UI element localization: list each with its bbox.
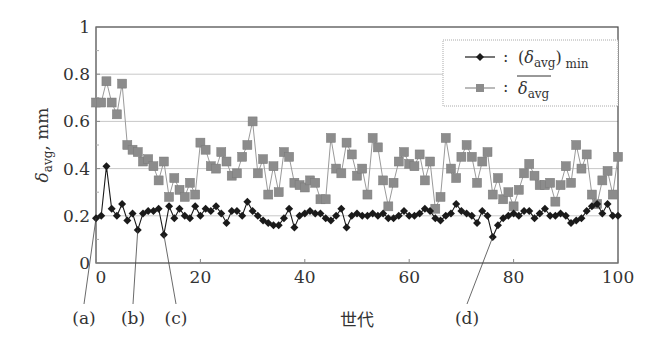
y-axis: 00.20.40.60.81 [63, 17, 100, 273]
x-axis-label: 世代 [340, 310, 374, 330]
legend: : (δavg) min : δavg [443, 40, 618, 106]
annotation-label: (a) [72, 308, 95, 328]
y-tick-label: 1 [79, 17, 90, 37]
annotation-label: (c) [165, 308, 188, 328]
x-tick-label: 0 [96, 267, 107, 287]
svg-text:δavg, mm: δavg, mm [32, 108, 55, 183]
x-tick-label: 40 [294, 267, 316, 287]
square-marker-icon [476, 84, 484, 92]
y-axis-label: δavg, mm [32, 108, 55, 183]
x-tick-label: 100 [602, 267, 634, 287]
svg-text::: : [503, 77, 508, 96]
y-tick-label: 0.6 [63, 111, 90, 131]
y-tick-label: 0.8 [63, 64, 90, 84]
annotation-label: (b) [121, 308, 145, 328]
chart: 00.20.40.60.81 020406080100 (a)(b)(c)(d)… [0, 0, 659, 354]
x-tick-label: 60 [398, 267, 420, 287]
svg-text::: : [503, 47, 508, 66]
x-tick-label: 20 [190, 267, 212, 287]
x-tick-label: 80 [503, 267, 525, 287]
y-tick-label: 0.2 [63, 206, 90, 226]
annotation-label: (d) [455, 308, 479, 328]
annotations: (a)(b)(c)(d) [72, 218, 492, 328]
y-tick-label: 0.4 [63, 159, 90, 179]
